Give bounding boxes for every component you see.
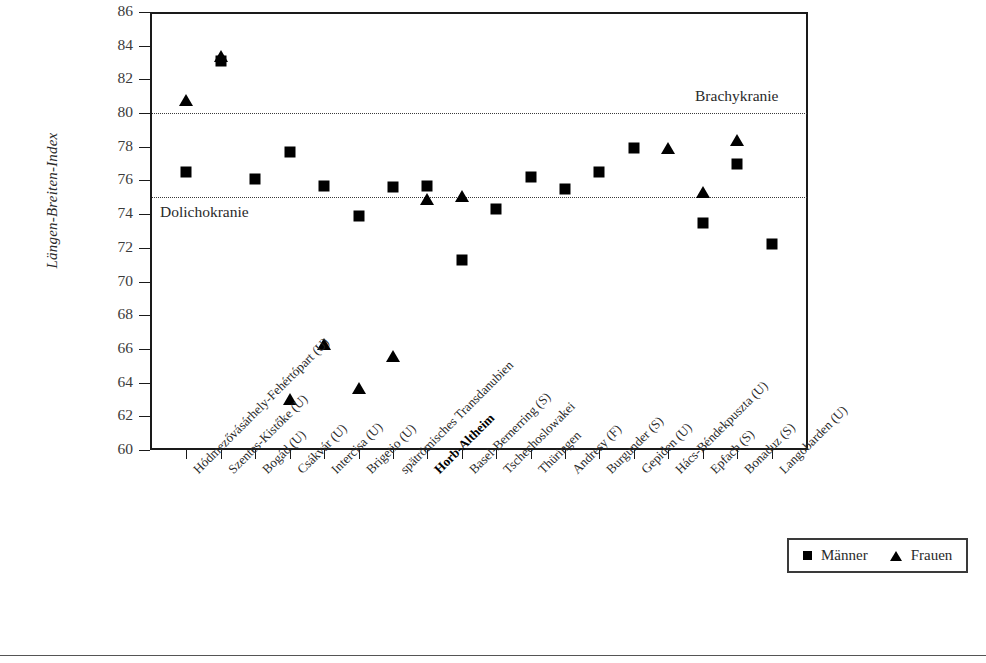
data-point-manner bbox=[387, 182, 398, 193]
y-axis-tick-label: 70 bbox=[99, 272, 133, 290]
y-axis-tick-label: 78 bbox=[99, 137, 133, 155]
data-point-manner bbox=[525, 172, 536, 183]
y-axis-tick-label: 86 bbox=[99, 2, 133, 20]
y-axis-tick bbox=[139, 46, 150, 47]
y-axis-tick bbox=[139, 450, 150, 451]
legend: Männer Frauen bbox=[787, 538, 968, 573]
data-point-frauen bbox=[730, 134, 744, 146]
legend-entry-frauen: Frauen bbox=[890, 547, 953, 564]
data-point-manner bbox=[766, 239, 777, 250]
y-axis-tick-label: 84 bbox=[99, 36, 133, 54]
y-axis-tick-label: 76 bbox=[99, 170, 133, 188]
reference-line bbox=[152, 113, 807, 114]
data-point-frauen bbox=[214, 50, 228, 62]
data-point-manner bbox=[319, 180, 330, 191]
data-point-frauen bbox=[696, 186, 710, 198]
y-axis-tick bbox=[139, 180, 150, 181]
data-point-frauen bbox=[420, 193, 434, 205]
data-point-frauen bbox=[386, 350, 400, 362]
data-point-manner bbox=[594, 167, 605, 178]
y-axis-tick bbox=[139, 147, 150, 148]
y-axis-tick bbox=[139, 349, 150, 350]
square-marker-icon bbox=[803, 551, 812, 560]
y-axis-tick-label: 80 bbox=[99, 103, 133, 121]
x-axis-tick bbox=[186, 450, 187, 459]
y-axis-tick-label: 82 bbox=[99, 69, 133, 87]
legend-label-frauen: Frauen bbox=[911, 547, 953, 564]
data-point-manner bbox=[284, 146, 295, 157]
triangle-marker-icon bbox=[890, 551, 902, 561]
reference-line-label: Brachykranie bbox=[695, 87, 779, 105]
data-point-frauen bbox=[455, 190, 469, 202]
y-axis-tick bbox=[139, 113, 150, 114]
page-bottom-rule bbox=[0, 655, 986, 656]
y-axis-tick-label: 66 bbox=[99, 339, 133, 357]
y-axis-tick bbox=[139, 214, 150, 215]
y-axis-tick-label: 60 bbox=[99, 440, 133, 458]
y-axis-tick bbox=[139, 248, 150, 249]
y-axis-title: Längen-Breiten-Index bbox=[44, 101, 61, 301]
data-point-manner bbox=[491, 204, 502, 215]
y-axis-tick-label: 62 bbox=[99, 406, 133, 424]
y-axis-tick-label: 68 bbox=[99, 305, 133, 323]
data-point-manner bbox=[181, 167, 192, 178]
data-point-frauen bbox=[179, 94, 193, 106]
data-point-frauen bbox=[661, 142, 675, 154]
y-axis-tick bbox=[139, 79, 150, 80]
data-point-manner bbox=[697, 217, 708, 228]
y-axis-tick-label: 74 bbox=[99, 204, 133, 222]
data-point-manner bbox=[422, 180, 433, 191]
data-point-manner bbox=[250, 173, 261, 184]
scatter-chart: Längen-Breiten-Index 8684828078767472706… bbox=[0, 0, 986, 663]
y-axis-tick bbox=[139, 282, 150, 283]
data-point-manner bbox=[732, 158, 743, 169]
y-axis-tick bbox=[139, 315, 150, 316]
data-point-manner bbox=[560, 183, 571, 194]
reference-line-label: Dolichokranie bbox=[160, 203, 249, 221]
legend-entry-manner: Männer bbox=[803, 547, 868, 564]
y-axis-tick bbox=[139, 383, 150, 384]
data-point-frauen bbox=[352, 382, 366, 394]
y-axis-tick-label: 72 bbox=[99, 238, 133, 256]
data-point-manner bbox=[628, 143, 639, 154]
legend-label-manner: Männer bbox=[821, 547, 868, 564]
y-axis-tick bbox=[139, 416, 150, 417]
y-axis-tick bbox=[139, 12, 150, 13]
data-point-manner bbox=[353, 210, 364, 221]
data-point-manner bbox=[456, 254, 467, 265]
y-axis-tick-label: 64 bbox=[99, 373, 133, 391]
